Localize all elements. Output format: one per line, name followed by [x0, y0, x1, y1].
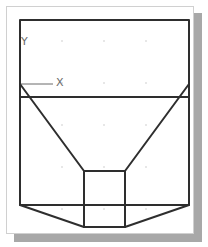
cad-drawing[interactable]: X Y [0, 0, 208, 247]
ucs-y-label: Y [20, 35, 28, 48]
ucs-icon: X Y [20, 35, 64, 89]
grid-dots [61, 40, 147, 210]
bottom-right-slant[interactable] [125, 205, 189, 227]
inner-rectangle[interactable] [84, 171, 125, 227]
outer-rectangle[interactable] [20, 20, 189, 205]
bottom-left-slant[interactable] [20, 205, 84, 227]
ucs-x-label: X [56, 76, 64, 89]
